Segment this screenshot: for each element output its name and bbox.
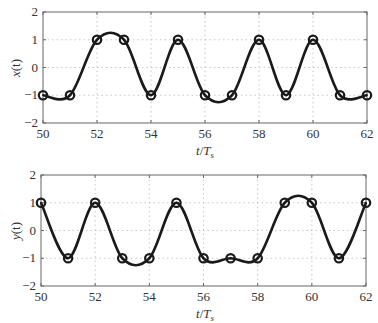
sample-marker-dot [94, 202, 96, 204]
bottom-xlabel: t/Ts [196, 306, 214, 323]
y-tick-label: 2 [32, 4, 39, 19]
sample-marker-dot [231, 94, 233, 96]
y-tick-label: −1 [22, 250, 36, 265]
x-tick-label: 52 [91, 126, 104, 141]
sample-marker-dot [175, 202, 177, 204]
y-tick-label: 1 [32, 32, 39, 47]
x-tick-label: 54 [143, 289, 157, 304]
y-tick-label: 1 [30, 195, 37, 210]
bottom-ylabel: y(t) [8, 222, 23, 242]
x-tick-label: 60 [307, 126, 320, 141]
x-tick-label: 58 [251, 289, 264, 304]
sample-marker-dot [123, 39, 125, 41]
x-tick-label: 50 [35, 289, 48, 304]
top-xlabel: t/Ts [196, 143, 214, 160]
sample-marker-dot [365, 202, 367, 204]
sample-marker-dot [257, 257, 259, 259]
x-tick-label: 56 [199, 126, 213, 141]
sample-marker-dot [40, 202, 42, 204]
sample-marker-dot [311, 202, 313, 204]
sample-marker-dot [339, 94, 341, 96]
x-tick-label: 62 [360, 289, 373, 304]
sample-marker-dot [69, 94, 71, 96]
x-tick-label: 50 [37, 126, 50, 141]
y-tick-label: −2 [24, 115, 38, 130]
x-tick-label: 60 [305, 289, 318, 304]
sample-marker-dot [203, 257, 205, 259]
sample-marker-dot [121, 257, 123, 259]
y-tick-label: 2 [30, 167, 37, 182]
x-tick-label: 58 [253, 126, 266, 141]
sample-marker-dot [312, 39, 314, 41]
sample-marker-dot [338, 257, 340, 259]
sample-marker-dot [366, 94, 368, 96]
sample-marker-dot [230, 257, 232, 259]
sample-marker-dot [177, 39, 179, 41]
x-tick-label: 62 [361, 126, 374, 141]
chart-canvas: 50525456586062−2−1012 50525456586062−2−1… [0, 0, 378, 323]
y-tick-label: −2 [22, 278, 36, 293]
sample-marker-dot [148, 257, 150, 259]
y-tick-label: 0 [30, 223, 37, 238]
sample-marker-dot [285, 94, 287, 96]
plot-y-t: 50525456586062−2−1012 [22, 167, 372, 304]
y-tick-label: 0 [32, 60, 39, 75]
y-tick-label: −1 [24, 87, 38, 102]
plot-x-t: 50525456586062−2−1012 [24, 4, 373, 141]
sample-marker-dot [96, 39, 98, 41]
sample-marker-dot [42, 94, 44, 96]
sample-marker-dot [284, 202, 286, 204]
sample-marker-dot [258, 39, 260, 41]
x-tick-label: 52 [89, 289, 102, 304]
sample-marker-dot [204, 94, 206, 96]
x-tick-label: 54 [145, 126, 159, 141]
sample-marker-dot [150, 94, 152, 96]
top-ylabel: x(t) [8, 59, 23, 78]
sample-marker-dot [67, 257, 69, 259]
x-tick-label: 56 [197, 289, 211, 304]
